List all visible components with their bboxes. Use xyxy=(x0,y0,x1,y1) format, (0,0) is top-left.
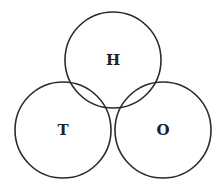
label-o: O xyxy=(156,121,169,139)
label-h: H xyxy=(106,51,120,69)
label-t: T xyxy=(57,121,69,139)
venn-diagram: H T O xyxy=(0,0,222,189)
